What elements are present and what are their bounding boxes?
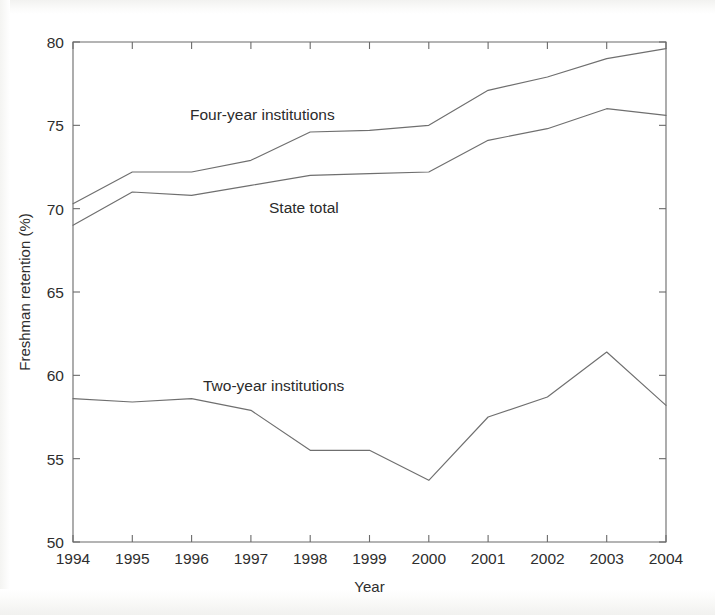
- y-tick-label: 65: [47, 284, 64, 301]
- x-tick-label: 2001: [471, 550, 505, 567]
- x-tick-labels: 1994199519961997199819992000200120022003…: [56, 550, 684, 567]
- series-line: [73, 109, 666, 226]
- x-tick-label: 2000: [412, 550, 447, 567]
- y-tick-label: 55: [47, 451, 64, 468]
- y-tick-label: 80: [47, 34, 65, 51]
- chart-page: 1994199519961997199819992000200120022003…: [0, 0, 715, 615]
- series-annotation: Four-year institutions: [190, 106, 335, 123]
- series-annotation: State total: [269, 199, 339, 216]
- y-tick-label: 50: [47, 534, 65, 551]
- x-tick-label: 1999: [352, 550, 386, 567]
- x-tick-label: 2004: [649, 550, 684, 567]
- series-inline-labels: Four-year institutionsState totalTwo-yea…: [190, 106, 345, 394]
- x-tick-label: 2003: [589, 550, 623, 567]
- x-tick-label: 1998: [293, 550, 327, 567]
- x-tick-label: 1995: [115, 550, 149, 567]
- chart-ticks: [73, 42, 666, 542]
- axis-titles: YearFreshman retention (%): [16, 213, 385, 595]
- y-axis-title: Freshman retention (%): [16, 213, 33, 371]
- chart-series-lines: [73, 49, 666, 481]
- chart-axes: [73, 42, 666, 542]
- x-tick-label: 2002: [530, 550, 564, 567]
- line-chart: 1994199519961997199819992000200120022003…: [0, 0, 715, 615]
- x-tick-label: 1996: [174, 550, 208, 567]
- y-tick-labels: 50556065707580: [47, 34, 65, 551]
- x-tick-label: 1997: [234, 550, 268, 567]
- plot-frame: [73, 42, 666, 542]
- series-line: [73, 352, 666, 480]
- x-tick-label: 1994: [56, 550, 91, 567]
- y-tick-label: 70: [47, 201, 65, 218]
- series-line: [73, 49, 666, 204]
- y-tick-label: 60: [47, 367, 65, 384]
- x-axis-title: Year: [354, 578, 384, 595]
- series-annotation: Two-year institutions: [203, 377, 345, 394]
- y-tick-label: 75: [47, 117, 64, 134]
